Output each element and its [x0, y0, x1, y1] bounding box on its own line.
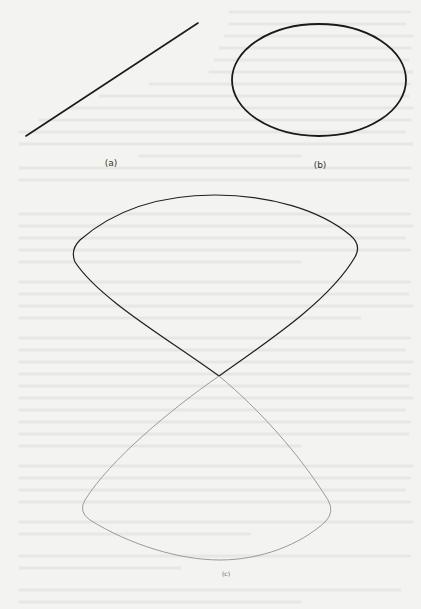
panel-c-lower-lobe	[82, 376, 330, 560]
panel-c-upper-lobe	[73, 195, 357, 376]
panel-b-ellipse	[232, 24, 406, 136]
panel-b-label: (b)	[314, 160, 327, 170]
panel-a-label: (a)	[105, 158, 118, 168]
scanned-page: (a) (b) (c)	[0, 0, 421, 609]
panel-a-line	[26, 23, 198, 136]
figure-drawing	[0, 0, 421, 609]
panel-c-label: (c)	[222, 570, 230, 577]
